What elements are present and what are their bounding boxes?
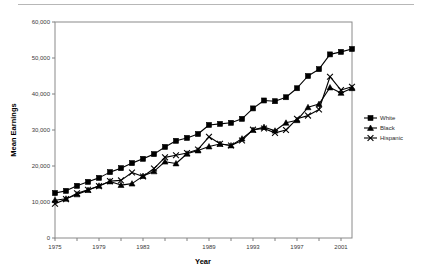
data-point-marker-square — [251, 106, 256, 111]
data-point-marker-square — [273, 99, 278, 104]
x-axis-title: Year — [195, 257, 211, 266]
x-tick-label: 1989 — [202, 244, 216, 250]
legend-label: Black — [380, 125, 396, 131]
y-tick-label: 40,000 — [32, 91, 51, 97]
y-axis-title: Mean Earnings — [9, 103, 18, 156]
data-point-marker-square — [306, 74, 311, 79]
legend-label: Hispanic — [380, 135, 403, 141]
data-point-marker-square — [86, 179, 91, 184]
chart-figure: 010,00020,00030,00040,00050,00060,000 19… — [0, 0, 427, 278]
data-point-marker-square — [240, 116, 245, 121]
data-point-marker-square — [339, 49, 344, 54]
data-point-marker-x — [305, 113, 311, 119]
data-point-marker-x — [206, 134, 212, 140]
data-point-marker-square — [196, 131, 201, 136]
series-hispanic — [52, 74, 355, 207]
y-tick-label: 10,000 — [32, 199, 51, 205]
x-tick-label: 2001 — [334, 244, 348, 250]
x-tick-label: 1997 — [290, 244, 304, 250]
data-point-marker-triangle — [327, 85, 333, 90]
series-line — [55, 49, 352, 193]
data-point-marker-square — [328, 52, 333, 57]
data-point-marker-x — [327, 74, 333, 80]
data-point-marker-square — [262, 98, 267, 103]
earnings-line-chart: 010,00020,00030,00040,00050,00060,000 19… — [0, 0, 427, 278]
data-point-marker-square — [229, 120, 234, 125]
data-point-marker-square — [174, 138, 179, 143]
y-tick-label: 0 — [47, 235, 51, 241]
x-tick-label: 1975 — [48, 244, 62, 250]
data-point-marker-square — [119, 166, 124, 171]
data-point-marker-triangle — [129, 181, 135, 186]
data-point-marker-x — [129, 170, 135, 176]
x-axis-tick-labels: 1975197919831989199319972001 — [48, 244, 348, 250]
data-point-marker-square — [368, 116, 373, 121]
data-point-marker-square — [53, 191, 58, 196]
data-point-marker-square — [350, 47, 355, 52]
legend-item-black[interactable]: Black — [364, 125, 396, 131]
data-point-marker-square — [163, 144, 168, 149]
x-tick-label: 1983 — [136, 244, 150, 250]
data-point-marker-square — [152, 152, 157, 157]
series-layer — [52, 47, 355, 207]
data-point-marker-square — [295, 86, 300, 91]
legend-label: White — [380, 115, 396, 121]
data-point-marker-square — [141, 156, 146, 161]
chart-legend: WhiteBlackHispanic — [364, 115, 403, 141]
data-point-marker-square — [218, 121, 223, 126]
y-tick-label: 20,000 — [32, 163, 51, 169]
data-point-marker-square — [97, 175, 102, 180]
data-point-marker-square — [284, 95, 289, 100]
data-point-marker-x — [316, 107, 322, 113]
data-point-marker-square — [185, 135, 190, 140]
y-tick-label: 30,000 — [32, 127, 51, 133]
data-point-marker-square — [75, 183, 80, 188]
series-white — [53, 47, 355, 196]
y-tick-label: 50,000 — [32, 55, 51, 61]
y-tick-label: 60,000 — [32, 19, 51, 25]
x-tick-label: 1993 — [246, 244, 260, 250]
x-tick-label: 1979 — [92, 244, 106, 250]
data-point-marker-square — [130, 161, 135, 166]
data-point-marker-square — [317, 67, 322, 72]
legend-item-white[interactable]: White — [364, 115, 396, 121]
data-point-marker-square — [64, 188, 69, 193]
legend-item-hispanic[interactable]: Hispanic — [364, 135, 403, 141]
data-point-marker-square — [207, 122, 212, 127]
data-point-marker-square — [108, 170, 113, 175]
y-axis-tick-labels: 010,00020,00030,00040,00050,00060,000 — [32, 19, 51, 241]
